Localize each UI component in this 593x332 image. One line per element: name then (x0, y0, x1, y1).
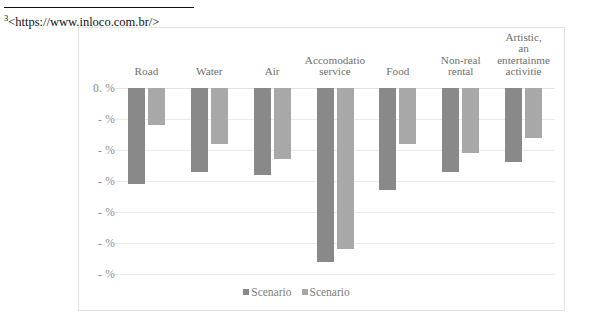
chart-legend-label: Scenario (310, 286, 350, 298)
y-axis-tick-label: - % (78, 113, 115, 125)
chart-legend-label: Scenario (251, 286, 291, 298)
chart-bar (399, 88, 416, 144)
chart-legend: ScenarioScenario (0, 286, 593, 298)
chart-bar (274, 88, 291, 159)
chart-bar (254, 88, 271, 175)
chart-gridline (115, 150, 555, 151)
chart-bar (525, 88, 542, 138)
y-axis-tick-label: 0. % (78, 82, 115, 94)
chart-category-label-line: activitie (481, 66, 567, 78)
chart-legend-item[interactable]: Scenario (243, 286, 291, 298)
chart-plot-area (115, 88, 555, 274)
chart-bar (317, 88, 334, 262)
y-axis-tick-label: - % (78, 175, 115, 187)
chart-category-label: Artistic,anentertainmeactivitie (481, 32, 567, 78)
chart-gridline (115, 274, 555, 275)
chart-bar (148, 88, 165, 125)
chart-bar (337, 88, 354, 249)
chart-bar (191, 88, 208, 172)
y-axis-tick-label: - % (78, 206, 115, 218)
chart-bar (462, 88, 479, 153)
chart-zero-line (115, 88, 555, 89)
chart-y-axis: 0. %- %- %- %- %- %- % (78, 0, 115, 332)
chart-bar (379, 88, 396, 190)
chart-gridline (115, 212, 555, 213)
y-axis-tick-label: - % (78, 268, 115, 280)
chart-bar (505, 88, 522, 162)
chart-legend-item[interactable]: Scenario (302, 286, 350, 298)
chart-legend-swatch (302, 289, 308, 295)
y-axis-tick-label: - % (78, 237, 115, 249)
y-axis-tick-label: - % (78, 144, 115, 156)
chart-gridline (115, 243, 555, 244)
chart-bar (211, 88, 228, 144)
chart-bar (128, 88, 145, 184)
chart-gridline (115, 119, 555, 120)
chart-legend-swatch (243, 289, 249, 295)
chart-bar (442, 88, 459, 172)
chart-gridline (115, 181, 555, 182)
